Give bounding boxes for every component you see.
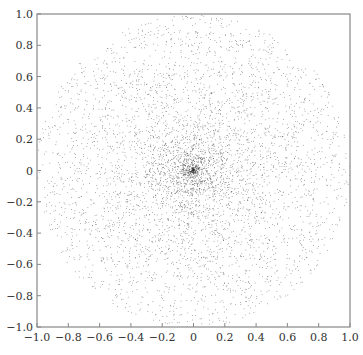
y-tick-label: 0.6 <box>16 71 34 84</box>
scatter-chart: −1.0−0.8−0.6−0.4−0.200.20.40.60.81.0 1.0… <box>0 0 363 355</box>
x-tick-label: −0.8 <box>55 331 82 344</box>
y-tick-label: 0.2 <box>16 133 34 146</box>
x-tick-label: 0.4 <box>247 331 265 344</box>
y-tick-label: 0.4 <box>16 102 34 115</box>
x-tick-label: 0 <box>190 331 197 344</box>
y-tick-label: 1.0 <box>16 8 34 21</box>
scatter-points <box>38 15 350 327</box>
y-axis: 1.00.80.60.40.20−0.2−0.4−0.6−0.8−1.0 <box>6 8 41 334</box>
y-tick-label: −0.6 <box>6 258 33 271</box>
y-tick-label: 0 <box>26 165 33 178</box>
y-tick-label: −0.8 <box>6 290 33 303</box>
x-tick-label: −0.6 <box>86 331 113 344</box>
y-tick-label: −0.4 <box>6 227 33 240</box>
y-tick-label: −1.0 <box>6 321 33 334</box>
x-tick-label: −0.2 <box>149 331 176 344</box>
x-axis: −1.0−0.8−0.6−0.4−0.200.20.40.60.81.0 <box>24 323 359 344</box>
x-tick-label: 0.2 <box>216 331 234 344</box>
x-tick-label: −0.4 <box>118 331 145 344</box>
x-tick-label: 0.8 <box>310 331 328 344</box>
x-tick-label: 1.0 <box>341 331 359 344</box>
x-tick-label: 0.6 <box>279 331 297 344</box>
y-tick-label: 0.8 <box>16 39 34 52</box>
y-tick-label: −0.2 <box>6 196 33 209</box>
